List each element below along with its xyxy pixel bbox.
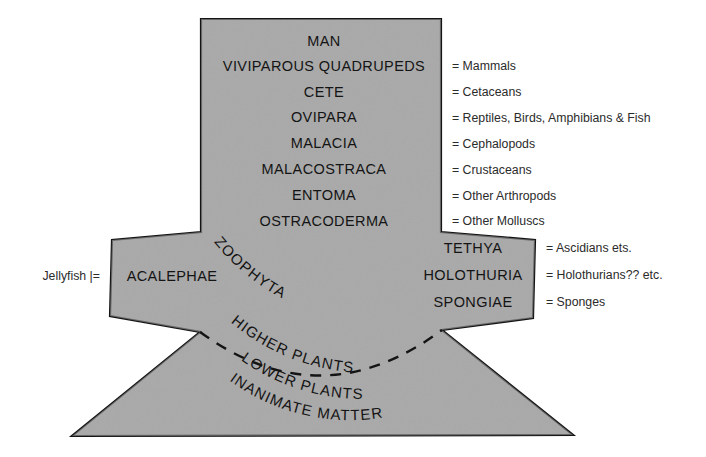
gloss-jellyfish: Jellyfish |=: [42, 269, 100, 283]
gloss-other-molluscs: = Other Molluscs: [452, 214, 545, 228]
ladder-term-ostracoderma: OSTRACODERMA: [260, 213, 389, 229]
band-term-acalephae: ACALEPHAE: [127, 268, 218, 284]
gloss-crustaceans: = Crustaceans: [452, 163, 532, 177]
scala-naturae-figure: MAN VIVIPAROUS QUADRUPEDS CETE OVIPARA M…: [0, 0, 706, 457]
gloss-cetaceans: = Cetaceans: [452, 85, 521, 99]
gloss-holothurians: = Holothurians?? etc.: [546, 268, 663, 282]
gloss-ascidians: = Ascidians ets.: [546, 241, 632, 255]
ladder-term-ovipara: OVIPARA: [291, 109, 357, 125]
gloss-mammals: = Mammals: [452, 59, 516, 73]
ladder-glosses: = Mammals = Cetaceans = Reptiles, Birds,…: [452, 59, 651, 228]
band-term-spongiae: SPONGIAE: [434, 294, 513, 310]
gloss-other-arthropods: = Other Arthropods: [452, 189, 556, 203]
band-left: ACALEPHAE Jellyfish |=: [42, 268, 217, 284]
band-term-holothuria: HOLOTHURIA: [423, 267, 522, 283]
diagram-canvas: MAN VIVIPAROUS QUADRUPEDS CETE OVIPARA M…: [0, 0, 706, 457]
ladder-term-cete: CETE: [304, 84, 344, 100]
ladder-term-man: MAN: [307, 33, 340, 49]
ladder-term-malacia: MALACIA: [291, 135, 357, 151]
ladder-term-viviparous-quadrupeds: VIVIPAROUS QUADRUPEDS: [223, 58, 425, 74]
gloss-sponges: = Sponges: [546, 295, 605, 309]
gloss-ovipara-groups: = Reptiles, Birds, Amphibians & Fish: [452, 111, 651, 125]
gloss-cephalopods: = Cephalopods: [452, 137, 535, 151]
band-right: TETHYA HOLOTHURIA SPONGIAE = Ascidians e…: [423, 240, 662, 310]
ladder-term-entoma: ENTOMA: [292, 187, 356, 203]
band-term-tethya: TETHYA: [444, 240, 503, 256]
ladder-term-malacostraca: MALACOSTRACA: [262, 161, 387, 177]
